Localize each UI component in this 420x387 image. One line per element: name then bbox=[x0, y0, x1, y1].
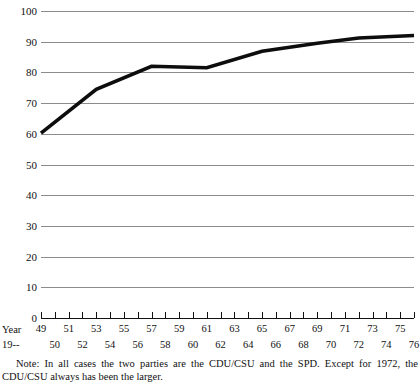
x-tick-76 bbox=[414, 312, 415, 318]
x-tick-64 bbox=[248, 312, 249, 318]
x-tick-label-68: 68 bbox=[292, 339, 314, 350]
x-tick-67 bbox=[290, 312, 291, 318]
chart-figure: 1009080706050403020100 49505152535455565… bbox=[0, 0, 420, 387]
x-tick-label-71: 71 bbox=[334, 323, 356, 334]
x-tick-58 bbox=[165, 312, 166, 318]
x-tick-57 bbox=[152, 312, 153, 318]
x-tick-65 bbox=[262, 312, 263, 318]
x-tick-label-66: 66 bbox=[265, 339, 287, 350]
x-tick-72 bbox=[359, 312, 360, 318]
x-tick-label-52: 52 bbox=[71, 339, 93, 350]
x-tick-label-64: 64 bbox=[237, 339, 259, 350]
x-tick-label-61: 61 bbox=[196, 323, 218, 334]
x-tick-label-58: 58 bbox=[154, 339, 176, 350]
x-tick-68 bbox=[303, 312, 304, 318]
x-tick-label-51: 51 bbox=[58, 323, 80, 334]
x-tick-label-72: 72 bbox=[348, 339, 370, 350]
x-tick-label-67: 67 bbox=[279, 323, 301, 334]
x-tick-label-59: 59 bbox=[168, 323, 190, 334]
x-tick-52 bbox=[82, 312, 83, 318]
x-tick-label-65: 65 bbox=[251, 323, 273, 334]
x-tick-62 bbox=[221, 312, 222, 318]
x-axis-caption: Year 19-- bbox=[2, 322, 21, 352]
x-tick-54 bbox=[110, 312, 111, 318]
x-tick-label-54: 54 bbox=[99, 339, 121, 350]
x-tick-56 bbox=[138, 312, 139, 318]
x-tick-label-74: 74 bbox=[375, 339, 397, 350]
x-tick-label-70: 70 bbox=[320, 339, 342, 350]
x-tick-55 bbox=[124, 312, 125, 318]
x-tick-73 bbox=[373, 312, 374, 318]
x-tick-label-53: 53 bbox=[85, 323, 107, 334]
x-tick-50 bbox=[55, 312, 56, 318]
x-tick-label-55: 55 bbox=[113, 323, 135, 334]
x-tick-49 bbox=[41, 312, 42, 318]
x-tick-61 bbox=[207, 312, 208, 318]
x-tick-label-49: 49 bbox=[30, 323, 52, 334]
x-tick-label-62: 62 bbox=[210, 339, 232, 350]
x-tick-69 bbox=[317, 312, 318, 318]
chart-note: Note: In all cases the two parties are t… bbox=[2, 358, 418, 383]
x-tick-63 bbox=[234, 312, 235, 318]
x-tick-label-73: 73 bbox=[362, 323, 384, 334]
x-tick-66 bbox=[276, 312, 277, 318]
x-tick-label-76: 76 bbox=[403, 339, 420, 350]
x-tick-label-57: 57 bbox=[141, 323, 163, 334]
x-tick-label-75: 75 bbox=[389, 323, 411, 334]
year-caption-line1: Year bbox=[2, 322, 21, 337]
year-caption-line2: 19-- bbox=[2, 337, 21, 352]
x-tick-53 bbox=[96, 312, 97, 318]
x-tick-75 bbox=[400, 312, 401, 318]
x-tick-71 bbox=[345, 312, 346, 318]
x-tick-51 bbox=[69, 312, 70, 318]
x-tick-label-69: 69 bbox=[306, 323, 328, 334]
x-tick-59 bbox=[179, 312, 180, 318]
x-tick-label-63: 63 bbox=[223, 323, 245, 334]
x-tick-label-50: 50 bbox=[44, 339, 66, 350]
x-tick-label-56: 56 bbox=[127, 339, 149, 350]
x-tick-70 bbox=[331, 312, 332, 318]
x-axis-ticks: 4950515253545556575859606162636465666768… bbox=[0, 0, 420, 387]
x-tick-label-60: 60 bbox=[182, 339, 204, 350]
x-tick-60 bbox=[193, 312, 194, 318]
x-tick-74 bbox=[386, 312, 387, 318]
